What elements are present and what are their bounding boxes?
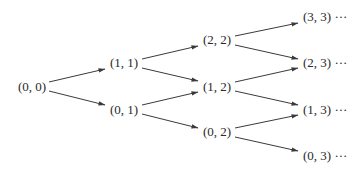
node-1-1: (1, 1) — [110, 56, 138, 70]
edge-arrow — [142, 92, 198, 105]
node-2-3: (2, 3) ··· — [303, 56, 347, 70]
node-1-2: (1, 2) — [203, 80, 231, 94]
lattice-tree-diagram: (0, 0) (1, 1) (0, 1) (2, 2) (1, 2) (0, 2… — [0, 0, 363, 173]
node-0-1: (0, 1) — [110, 103, 138, 117]
node-2-2: (2, 2) — [203, 33, 231, 47]
edge-arrow — [235, 68, 298, 82]
node-0-3: (0, 3) ··· — [303, 149, 347, 163]
edge-arrow — [142, 68, 198, 81]
edge-arrow — [235, 91, 298, 105]
edge-arrow — [235, 115, 298, 128]
edge-arrow — [235, 137, 298, 151]
node-1-3: (1, 3) ··· — [303, 103, 347, 117]
node-3-3: (3, 3) ··· — [303, 10, 347, 24]
edge-arrow — [49, 69, 105, 82]
node-0-0: (0, 0) — [18, 80, 46, 94]
edge-arrow — [235, 45, 298, 59]
edge-arrow — [142, 114, 198, 128]
edge-arrow — [235, 23, 298, 36]
edge-arrow — [142, 46, 198, 59]
edge-arrow — [49, 91, 105, 105]
node-0-2: (0, 2) — [203, 125, 231, 139]
